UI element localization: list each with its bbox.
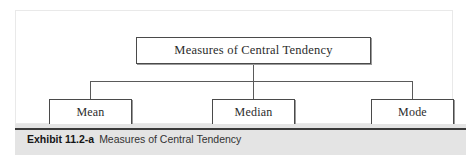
connector-drop-mode [412, 81, 413, 99]
node-mode: Mode [371, 99, 454, 125]
exhibit-figure: Measures of Central Tendency Mean Median… [0, 0, 466, 155]
connector-horizontal-bar [90, 81, 413, 82]
diagram-panel: Measures of Central Tendency Mean Median… [15, 10, 453, 124]
caption-top-rule [15, 128, 466, 130]
node-mean: Mean [49, 99, 132, 125]
connector-root-trunk [253, 63, 254, 81]
caption: Exhibit 11.2-aMeasures of Central Tenden… [27, 133, 241, 145]
node-measures-of-central-tendency: Measures of Central Tendency [136, 37, 371, 64]
connector-drop-mean [90, 81, 91, 99]
caption-exhibit-label: Exhibit 11.2-a [27, 133, 94, 145]
caption-title: Measures of Central Tendency [99, 133, 241, 145]
connector-drop-median [253, 81, 254, 99]
node-median: Median [212, 99, 295, 125]
